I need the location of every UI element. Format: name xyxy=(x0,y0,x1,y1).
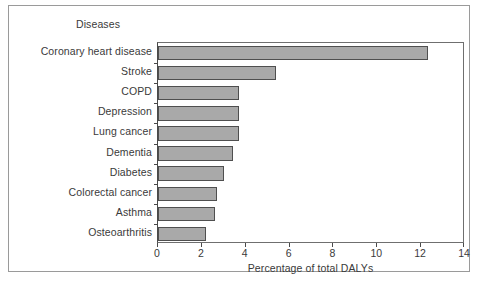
bar xyxy=(158,46,428,60)
y-axis-tick xyxy=(154,63,158,64)
bar xyxy=(158,126,239,140)
bar-row xyxy=(158,166,463,180)
y-axis-tick xyxy=(154,83,158,84)
y-axis-category-label: Colorectal cancer xyxy=(69,186,152,198)
y-axis-category-labels: Coronary heart diseaseStrokeCOPDDepressi… xyxy=(9,42,152,243)
y-axis-title: Diseases xyxy=(76,18,120,30)
bar xyxy=(158,146,233,160)
bar xyxy=(158,106,239,120)
bar-row xyxy=(158,106,463,120)
x-axis-tick-label: 0 xyxy=(154,247,160,259)
y-axis-category-label: Coronary heart disease xyxy=(41,45,152,57)
y-axis-tick xyxy=(154,103,158,104)
y-axis-category-label: COPD xyxy=(121,85,152,97)
y-axis-category-label: Dementia xyxy=(106,146,152,158)
y-axis-tick xyxy=(154,164,158,165)
bar-row xyxy=(158,126,463,140)
x-axis-tick-label: 4 xyxy=(242,247,248,259)
x-axis-tick-label: 10 xyxy=(370,247,382,259)
x-axis-tick-label: 8 xyxy=(330,247,336,259)
x-axis-tick-label: 2 xyxy=(198,247,204,259)
y-axis-tick xyxy=(154,144,158,145)
x-axis-tick-label: 14 xyxy=(458,247,470,259)
y-axis-tick xyxy=(154,224,158,225)
x-axis-tick-label: 6 xyxy=(286,247,292,259)
bar xyxy=(158,166,224,180)
bar xyxy=(158,187,217,201)
bar-row xyxy=(158,227,463,241)
y-axis-category-label: Asthma xyxy=(116,206,152,218)
bar-row xyxy=(158,187,463,201)
y-axis-category-label: Depression xyxy=(98,105,152,117)
bars-layer xyxy=(158,43,463,242)
y-axis-tick xyxy=(154,204,158,205)
bar-row xyxy=(158,46,463,60)
bar-row xyxy=(158,207,463,221)
bar xyxy=(158,66,276,80)
bar-row xyxy=(158,66,463,80)
plot-area xyxy=(157,42,464,243)
y-axis-category-label: Diabetes xyxy=(110,166,152,178)
bar xyxy=(158,227,206,241)
x-axis-tick-label: 12 xyxy=(414,247,426,259)
y-axis-tick xyxy=(154,123,158,124)
y-axis-category-label: Stroke xyxy=(121,65,152,77)
y-axis-category-label: Osteoarthritis xyxy=(88,226,152,238)
bar-row xyxy=(158,146,463,160)
bar-row xyxy=(158,86,463,100)
bar xyxy=(158,86,239,100)
figure-frame: Diseases Coronary heart diseaseStrokeCOP… xyxy=(8,5,470,272)
y-axis-tick xyxy=(154,184,158,185)
bar xyxy=(158,207,215,221)
x-axis-title: Percentage of total DALYs xyxy=(157,262,464,274)
x-axis-tick-labels: 02468101214 xyxy=(157,247,464,261)
y-axis-category-label: Lung cancer xyxy=(93,125,152,137)
